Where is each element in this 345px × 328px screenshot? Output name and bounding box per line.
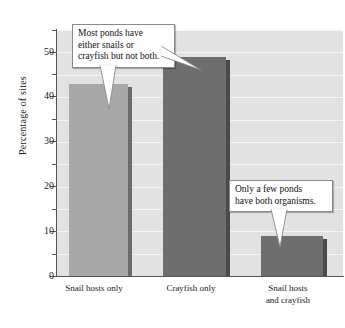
- y-axis-line: [56, 29, 57, 277]
- bar-side-shadow: [128, 87, 132, 276]
- callout-pointer: [96, 65, 126, 110]
- y-tick-label: 10: [30, 226, 54, 236]
- y-axis-title: Percentage of sites: [17, 46, 28, 186]
- y-tick-minor: [52, 119, 56, 120]
- bar-side-shadow: [323, 239, 327, 276]
- y-tick-minor: [52, 254, 56, 255]
- callout-pointer-secondary: [161, 46, 205, 72]
- bar-snail-hosts-only[interactable]: [69, 84, 132, 276]
- x-category-label-snail-hosts-only: Snail hosts only: [39, 283, 149, 295]
- bar-face: [163, 57, 226, 276]
- callout-most-ponds: Most ponds have either snails or crayfis…: [72, 24, 175, 68]
- bar-side-shadow: [226, 60, 230, 276]
- y-tick-minor: [52, 74, 56, 75]
- y-tick-label: 50: [30, 47, 54, 57]
- y-tick-minor: [52, 30, 56, 31]
- x-axis-line: [56, 276, 344, 277]
- bar-crayfish-only[interactable]: [163, 57, 230, 276]
- y-tick-minor: [52, 164, 56, 165]
- y-tick-minor: [52, 209, 56, 210]
- x-category-label-snail-hosts-and-crayfish: Snail hosts and crayfish: [242, 283, 334, 306]
- y-tick-label: 40: [30, 91, 54, 101]
- x-category-label-crayfish-only: Crayfish only: [141, 283, 241, 295]
- chart-figure: Percentage of sites: [0, 0, 345, 328]
- y-tick-label: 20: [30, 181, 54, 191]
- callout-only-a-few-ponds: Only a few ponds have both organisms.: [229, 180, 333, 212]
- bar-face: [69, 84, 128, 276]
- callout-pointer: [269, 209, 299, 249]
- callout-text-box: Most ponds have either snails or crayfis…: [72, 24, 175, 68]
- callout-text-box: Only a few ponds have both organisms.: [229, 180, 333, 212]
- y-tick-label: 0: [30, 271, 54, 281]
- y-tick-label: 30: [30, 136, 54, 146]
